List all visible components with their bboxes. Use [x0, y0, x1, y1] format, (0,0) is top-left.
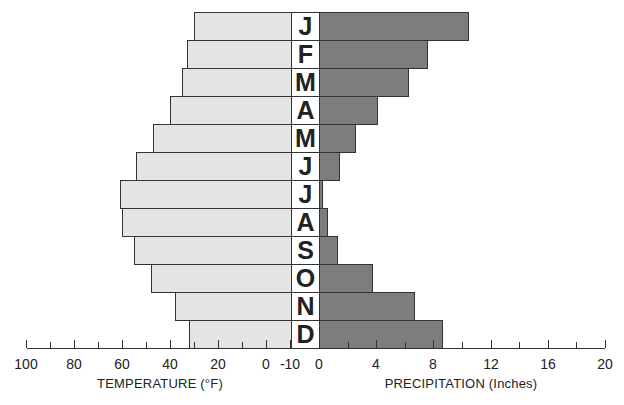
temperature-tick-label: 0 [262, 356, 270, 372]
month-label: J [291, 180, 320, 209]
month-label: A [291, 208, 320, 237]
month-label: J [291, 12, 320, 41]
axis-tick [50, 342, 51, 348]
axis-tick [266, 340, 267, 348]
month-label: O [291, 264, 320, 293]
temperature-bar [134, 236, 292, 265]
axis-tick [433, 340, 434, 348]
temperature-tick-label: 60 [114, 356, 130, 372]
temperature-bar [170, 96, 292, 125]
axis-tick [548, 340, 549, 348]
temperature-bar [151, 264, 292, 293]
axis-tick [348, 342, 349, 348]
precipitation-bar [319, 180, 323, 209]
axis-tick [170, 340, 171, 348]
temperature-bar [194, 12, 292, 41]
axis-tick [576, 342, 577, 348]
axis-tick [74, 340, 75, 348]
temperature-bar [122, 208, 292, 237]
month-label: M [291, 68, 320, 97]
axis-tick [218, 340, 219, 348]
axis-tick [462, 342, 463, 348]
month-label: J [291, 152, 320, 181]
temperature-bar [189, 320, 292, 349]
temperature-bar [187, 40, 292, 69]
precipitation-tick-label: 4 [372, 356, 380, 372]
temperature-bar [175, 292, 292, 321]
month-label: N [291, 292, 320, 321]
axis-tick [122, 340, 123, 348]
precipitation-tick-label: 0 [315, 356, 323, 372]
precipitation-bar [319, 152, 340, 181]
temperature-bar [182, 68, 292, 97]
temperature-tick-label: -10 [280, 356, 300, 372]
month-label: M [291, 124, 320, 153]
axis-tick [26, 340, 27, 348]
precipitation-tick-label: 8 [429, 356, 437, 372]
temperature-tick-label: 100 [14, 356, 37, 372]
precipitation-bar [319, 12, 469, 41]
precipitation-bar [319, 68, 409, 97]
month-label: F [291, 40, 320, 69]
axis-tick [98, 342, 99, 348]
axis-tick [491, 340, 492, 348]
axis-tick [376, 340, 377, 348]
precipitation-axis-title: PRECIPITATION (Inches) [385, 376, 538, 391]
axis-tick [242, 342, 243, 348]
axis-tick [319, 340, 320, 348]
x-axis-line [27, 348, 605, 349]
precipitation-tick-label: 12 [483, 356, 499, 372]
temperature-bar [153, 124, 292, 153]
axis-tick [194, 342, 195, 348]
axis-tick [290, 340, 291, 348]
temperature-tick-label: 40 [162, 356, 178, 372]
temperature-bar [120, 180, 292, 209]
climate-chart: JFMAMJJASOND 100806040200-10048121620 TE… [0, 0, 624, 405]
month-label: A [291, 96, 320, 125]
temperature-axis-title: TEMPERATURE (°F) [97, 376, 223, 391]
precipitation-tick-label: 20 [597, 356, 613, 372]
precipitation-bar [319, 264, 373, 293]
axis-tick [146, 342, 147, 348]
temperature-tick-label: 80 [66, 356, 82, 372]
precipitation-bar [319, 124, 356, 153]
precipitation-bar [319, 96, 378, 125]
precipitation-tick-label: 16 [540, 356, 556, 372]
precipitation-bar [319, 40, 428, 69]
month-label: S [291, 236, 320, 265]
temperature-tick-label: 20 [210, 356, 226, 372]
axis-tick [519, 342, 520, 348]
axis-tick [405, 342, 406, 348]
month-label: D [291, 320, 320, 349]
precipitation-bar [319, 236, 338, 265]
axis-tick [605, 340, 606, 348]
temperature-bar [136, 152, 292, 181]
precipitation-bar [319, 320, 443, 349]
precipitation-bar [319, 292, 415, 321]
precipitation-bar [319, 208, 328, 237]
